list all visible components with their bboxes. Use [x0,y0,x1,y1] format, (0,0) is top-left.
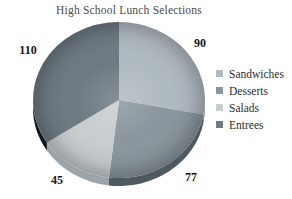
legend-label-sandwiches: Sandwiches [229,68,284,80]
pie-chart-figure: High School Lunch Selections 90 77 45 11… [0,0,292,199]
legend-swatch-salads [216,104,223,111]
legend-label-desserts: Desserts [229,85,268,97]
value-label-entrees: 110 [14,43,42,58]
value-label-desserts: 77 [177,170,205,185]
legend-item-desserts: Desserts [216,82,284,99]
value-label-salads: 45 [43,173,71,188]
legend-swatch-desserts [216,87,223,94]
pie-dome-shading [33,22,205,178]
legend-label-entrees: Entrees [229,119,263,131]
legend: Sandwiches Desserts Salads Entrees [216,65,284,133]
legend-swatch-sandwiches [216,70,223,77]
legend-label-salads: Salads [229,102,259,114]
legend-item-salads: Salads [216,99,284,116]
legend-item-entrees: Entrees [216,116,284,133]
legend-swatch-entrees [216,121,223,128]
value-label-sandwiches: 90 [186,36,214,51]
legend-item-sandwiches: Sandwiches [216,65,284,82]
